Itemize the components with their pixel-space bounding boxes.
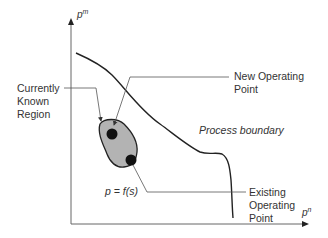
- label-line: Operating: [249, 199, 295, 212]
- label-line: Currently: [17, 82, 60, 95]
- y-axis-superscript: m: [83, 8, 89, 15]
- label-line: Known: [17, 95, 60, 108]
- process-boundary-label: Process boundary: [199, 124, 284, 137]
- currently-known-region-label: Currently Known Region: [17, 82, 60, 121]
- x-axis-label: pn: [302, 206, 311, 218]
- label-line: Point: [249, 212, 295, 225]
- label-line: Existing: [249, 186, 295, 199]
- known-region-leader: [64, 88, 101, 121]
- label-line: New Operating: [234, 70, 304, 83]
- new-point-leader: [114, 77, 229, 125]
- existing-operating-point-marker: [126, 155, 137, 166]
- x-axis-superscript: n: [308, 206, 312, 213]
- label-line: Point: [234, 83, 304, 96]
- y-axis-label: pm: [77, 8, 88, 20]
- new-operating-point-label: New Operating Point: [234, 70, 304, 96]
- function-label: p = f(s): [105, 185, 138, 198]
- operating-region-diagram: pm pn Currently Known Region New Operati…: [0, 0, 328, 238]
- new-operating-point-marker: [107, 129, 118, 140]
- label-line: Region: [17, 108, 60, 121]
- existing-operating-point-label: Existing Operating Point: [249, 186, 295, 225]
